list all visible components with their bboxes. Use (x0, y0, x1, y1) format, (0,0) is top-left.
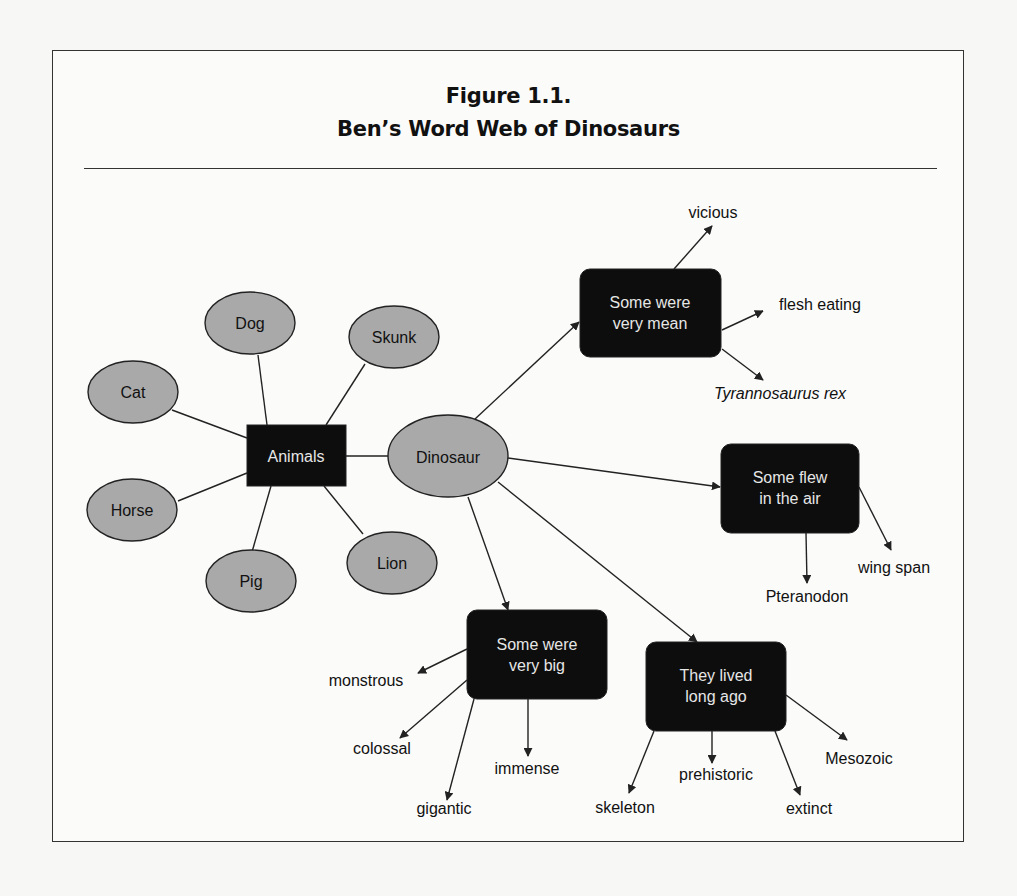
arrow-pteranodon (806, 533, 807, 583)
arrow-vicious (674, 226, 712, 269)
node-very-mean: Some were very mean (610, 292, 691, 334)
arrow-flesh-eating (722, 311, 763, 330)
node-very-big-line1: Some were (497, 634, 578, 655)
node-very-mean-line2: very mean (610, 313, 691, 334)
node-animals: Animals (268, 446, 325, 467)
connector-lion (324, 486, 363, 534)
arrow-skeleton (629, 731, 654, 793)
word-prehistoric: prehistoric (679, 766, 753, 784)
word-pteranodon: Pteranodon (766, 588, 849, 606)
word-skeleton: skeleton (595, 799, 655, 817)
dinosaur-arrows (468, 322, 720, 642)
node-dog: Dog (235, 313, 264, 334)
word-gigantic: gigantic (416, 800, 471, 818)
connector-pig (252, 486, 271, 552)
node-lion: Lion (377, 553, 407, 574)
word-colossal: colossal (353, 740, 411, 758)
connector-horse (178, 473, 247, 501)
node-pig: Pig (239, 571, 262, 592)
arrow-extinct (775, 731, 800, 795)
node-long-ago: They lived long ago (680, 665, 753, 707)
word-immense: immense (495, 760, 560, 778)
arrow-to-flew (508, 458, 720, 487)
node-flew: Some flew in the air (753, 467, 828, 509)
arrow-gigantic (447, 699, 474, 800)
connector-dog (258, 355, 267, 425)
arrow-colossal (400, 680, 467, 738)
word-vicious: vicious (689, 204, 738, 222)
word-tyrannosaurus-rex: Tyrannosaurus rex (714, 385, 846, 403)
connector-cat (172, 410, 247, 438)
node-cat: Cat (121, 382, 146, 403)
word-flesh-eating: flesh eating (779, 296, 861, 314)
node-very-mean-line1: Some were (610, 292, 691, 313)
word-mesozoic: Mesozoic (825, 750, 893, 768)
arrow-to-big (468, 497, 508, 610)
word-wing-span: wing span (858, 559, 930, 577)
arrow-wing-span (859, 487, 891, 550)
word-monstrous: monstrous (329, 672, 404, 690)
arrow-monstrous (418, 649, 467, 673)
arrow-to-mean (475, 322, 579, 419)
node-very-big: Some were very big (497, 634, 578, 676)
node-flew-line1: Some flew (753, 467, 828, 488)
node-very-big-line2: very big (497, 655, 578, 676)
node-long-ago-line1: They lived (680, 665, 753, 686)
node-dinosaur: Dinosaur (416, 447, 480, 468)
word-extinct: extinct (786, 800, 832, 818)
connector-skunk (326, 364, 365, 425)
arrow-trex (722, 349, 763, 380)
node-horse: Horse (111, 500, 154, 521)
node-flew-line2: in the air (753, 488, 828, 509)
node-long-ago-line2: long ago (680, 686, 753, 707)
node-skunk: Skunk (372, 327, 416, 348)
arrow-mesozoic (786, 695, 847, 740)
